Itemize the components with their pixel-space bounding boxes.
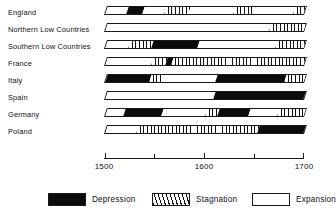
category-label-italy: Italy bbox=[8, 77, 102, 85]
x-axis-tick-1500 bbox=[105, 153, 106, 159]
segment-stagnation bbox=[275, 41, 307, 48]
segment-stagnation bbox=[171, 58, 307, 65]
segment-depression bbox=[215, 75, 286, 82]
timeline-bar bbox=[104, 108, 307, 117]
legend-item-expansion: Expansion bbox=[252, 190, 336, 208]
segment-depression bbox=[217, 109, 250, 116]
timeline-bar bbox=[104, 74, 307, 83]
segment-expansion bbox=[105, 58, 153, 65]
legend-swatch-expansion bbox=[252, 193, 290, 206]
segment-expansion bbox=[161, 109, 207, 116]
x-axis: 150016001700 bbox=[104, 158, 304, 180]
segment-expansion bbox=[105, 24, 271, 31]
legend-swatch-depression bbox=[48, 193, 86, 206]
segment-expansion bbox=[161, 75, 217, 82]
segment-expansion bbox=[105, 92, 215, 99]
timeline-bar bbox=[104, 57, 307, 66]
x-axis-label-1500: 1500 bbox=[95, 162, 114, 171]
segment-depression bbox=[105, 75, 151, 82]
legend-swatch-stagnation bbox=[152, 193, 190, 206]
plot-area bbox=[104, 4, 304, 156]
bar-row-germany bbox=[104, 108, 304, 119]
bar-row-southern-low-countries bbox=[104, 40, 304, 51]
timeline-bar bbox=[104, 23, 307, 32]
segment-stagnation bbox=[136, 126, 259, 133]
legend-item-stagnation: Stagnation bbox=[152, 190, 237, 208]
segment-depression bbox=[213, 92, 307, 99]
category-label-poland: Poland bbox=[8, 128, 102, 136]
category-label-germany: Germany bbox=[8, 111, 102, 119]
x-axis-label-1700: 1700 bbox=[295, 162, 314, 171]
segment-depression bbox=[151, 41, 199, 48]
segment-expansion bbox=[188, 7, 235, 14]
segment-expansion bbox=[105, 41, 130, 48]
bar-row-france bbox=[104, 57, 304, 68]
x-axis-tick-1700 bbox=[303, 153, 304, 159]
x-axis-label-1600: 1600 bbox=[195, 162, 214, 171]
segment-stagnation bbox=[164, 7, 190, 14]
segment-stagnation bbox=[293, 7, 307, 14]
timeline-bar bbox=[104, 6, 307, 15]
segment-expansion bbox=[253, 7, 295, 14]
x-axis-tick-minor-1550 bbox=[154, 154, 155, 159]
segment-stagnation bbox=[277, 109, 307, 116]
segment-expansion bbox=[105, 7, 128, 14]
bar-row-italy bbox=[104, 74, 304, 85]
segment-stagnation bbox=[128, 41, 153, 48]
bar-row-poland bbox=[104, 125, 304, 136]
category-label-spain: Spain bbox=[8, 94, 102, 102]
timeline-bar bbox=[104, 91, 307, 100]
legend-label-stagnation: Stagnation bbox=[196, 195, 237, 204]
segment-depression bbox=[257, 126, 307, 133]
segment-expansion bbox=[197, 41, 277, 48]
legend-label-depression: Depression bbox=[92, 195, 135, 204]
bar-row-northern-low-countries bbox=[104, 23, 304, 34]
category-label-southern-low-countries: Southern Low Countries bbox=[8, 43, 102, 51]
bar-row-england bbox=[104, 6, 304, 17]
segment-stagnation bbox=[233, 7, 255, 14]
category-label-france: France bbox=[8, 60, 102, 68]
segment-depression bbox=[123, 109, 163, 116]
category-label-england: England bbox=[8, 9, 102, 17]
bar-row-spain bbox=[104, 91, 304, 102]
segment-stagnation bbox=[269, 24, 307, 31]
category-label-column: EnglandNorthern Low CountriesSouthern Lo… bbox=[0, 0, 104, 160]
segment-expansion bbox=[105, 126, 138, 133]
segment-expansion bbox=[248, 109, 279, 116]
segment-expansion bbox=[142, 7, 166, 14]
timeline-bar bbox=[104, 40, 307, 49]
category-label-northern-low-countries: Northern Low Countries bbox=[8, 26, 102, 34]
chart-legend: DepressionStagnationExpansion bbox=[0, 190, 320, 214]
x-axis-tick-1600 bbox=[204, 153, 205, 159]
legend-item-depression: Depression bbox=[48, 190, 135, 208]
legend-label-expansion: Expansion bbox=[296, 195, 336, 204]
timeline-bar bbox=[104, 125, 307, 134]
x-axis-tick-minor-1650 bbox=[254, 154, 255, 159]
segment-stagnation bbox=[284, 75, 307, 82]
